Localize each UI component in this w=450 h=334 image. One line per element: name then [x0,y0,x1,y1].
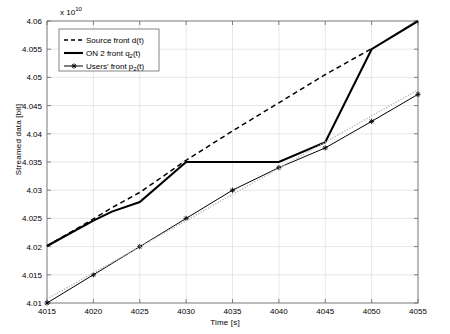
legend-label: Users' front p2(t) [86,62,145,72]
x-tick-label: 4045 [316,307,334,316]
y-tick-label: 4.045 [22,102,43,111]
plot-canvas: 4015402040254030403540404045405040554.01… [0,0,450,334]
chart-figure: x 1010 Streamed data [bit] Time [s] 4015… [0,0,450,334]
x-tick-label: 4015 [38,307,56,316]
y-tick-label: 4.03 [26,186,42,195]
y-tick-label: 4.01 [26,299,42,308]
y-tick-label: 4.05 [26,73,42,82]
x-tick-label: 4020 [84,307,102,316]
y-tick-label: 4.015 [22,271,43,280]
legend-label: ON 2 front q2(t) [86,49,141,59]
x-tick-label: 4040 [270,307,288,316]
series-line-source-front [47,49,372,246]
y-tick-label: 4.025 [22,214,43,223]
y-tick-label: 4.035 [22,158,43,167]
y-tick-label: 4.06 [26,17,42,26]
y-tick-label: 4.055 [22,45,43,54]
y-tick-label: 4.02 [26,243,42,252]
legend-label: Source front d(t) [86,36,144,45]
y-tick-label: 4.04 [26,130,42,139]
chart-legend: Source front d(t)ON 2 front q2(t)Users' … [59,29,159,72]
x-tick-label: 4030 [177,307,195,316]
x-tick-label: 4035 [224,307,242,316]
x-tick-label: 4050 [363,307,381,316]
x-tick-label: 4055 [409,307,427,316]
x-tick-label: 4025 [131,307,149,316]
